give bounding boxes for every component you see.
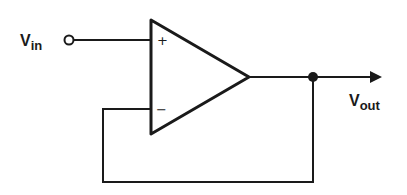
vin-label-sub: in	[31, 38, 43, 53]
vout-label: Vout	[349, 92, 381, 113]
vout-label-sub: out	[360, 98, 381, 113]
vin-label: Vin	[20, 32, 42, 53]
inverting-input-sign: −	[156, 102, 167, 117]
input-terminal-icon	[65, 36, 74, 45]
voltage-follower-diagram: Vin + − Vout	[0, 0, 407, 195]
vout-label-main: V	[349, 92, 360, 109]
output-arrow-icon	[370, 71, 382, 83]
vin-label-main: V	[20, 32, 31, 49]
noninverting-input-sign: +	[157, 33, 168, 48]
feedback-wire	[103, 77, 313, 182]
